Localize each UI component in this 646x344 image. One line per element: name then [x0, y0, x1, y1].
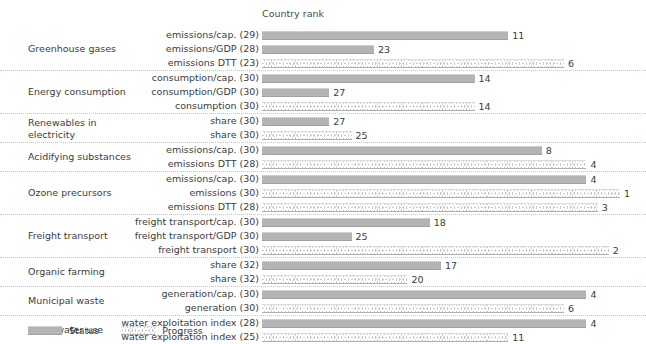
- bar-value-label: 25: [356, 230, 368, 244]
- indicator-label: emissions (30): [189, 186, 259, 200]
- legend-item-progress[interactable]: Progress: [121, 325, 203, 336]
- indicator-row: share (30)25: [0, 128, 646, 142]
- indicator-label: emissions/cap. (30): [166, 172, 259, 186]
- country-rank-chart: Country rank Greenhouse gasesemissions/c…: [0, 0, 646, 344]
- progress-bar[interactable]: [262, 304, 564, 313]
- status-bar[interactable]: [262, 218, 430, 227]
- status-bar[interactable]: [262, 31, 508, 40]
- indicator-row: freight transport (30)2: [0, 243, 646, 257]
- bar-value-label: 11: [512, 331, 524, 344]
- bar-value-label: 14: [479, 72, 491, 86]
- progress-bar[interactable]: [262, 102, 475, 111]
- legend-label: Status: [69, 325, 99, 336]
- indicator-row: consumption/GDP (30)27: [0, 85, 646, 99]
- bar-track: 14: [262, 102, 642, 111]
- progress-bar[interactable]: [262, 203, 598, 212]
- bar-value-label: 27: [333, 86, 345, 100]
- legend-swatch-progress-icon: [121, 326, 155, 335]
- indicator-label: emissions DTT (23): [168, 56, 259, 70]
- indicator-row: emissions (30)1: [0, 186, 646, 200]
- indicator-row: emissions/cap. (29)11: [0, 28, 646, 42]
- indicator-row: freight transport/cap. (30)18: [0, 215, 646, 229]
- indicator-label: consumption/GDP (30): [151, 85, 259, 99]
- bar-track: 4: [262, 319, 642, 328]
- indicator-label: share (30): [210, 114, 259, 128]
- legend-item-status[interactable]: Status: [28, 325, 99, 336]
- indicator-label: freight transport/cap. (30): [135, 215, 259, 229]
- bar-track: 3: [262, 203, 642, 212]
- bar-value-label: 20: [411, 273, 423, 287]
- indicator-label: freight transport/GDP (30): [135, 229, 259, 243]
- indicator-row: emissions/cap. (30)8: [0, 143, 646, 157]
- bar-track: 4: [262, 175, 642, 184]
- progress-bar[interactable]: [262, 333, 508, 342]
- bar-track: 6: [262, 304, 642, 313]
- bar-value-label: 4: [590, 173, 596, 187]
- bar-value-label: 8: [546, 144, 552, 158]
- bar-track: 25: [262, 232, 642, 241]
- status-bar[interactable]: [262, 45, 374, 54]
- bar-value-label: 18: [434, 216, 446, 230]
- progress-bar[interactable]: [262, 160, 586, 169]
- status-bar[interactable]: [262, 290, 586, 299]
- indicator-row: generation/cap. (30)4: [0, 287, 646, 301]
- progress-bar[interactable]: [262, 275, 407, 284]
- indicator-group: Organic farmingshare (32)17share (32)20: [0, 258, 646, 287]
- status-bar[interactable]: [262, 175, 586, 184]
- progress-bar[interactable]: [262, 131, 352, 140]
- indicator-label: freight transport (30): [158, 243, 259, 257]
- status-bar[interactable]: [262, 319, 586, 328]
- indicator-label: consumption/cap. (30): [152, 71, 259, 85]
- status-bar[interactable]: [262, 261, 441, 270]
- progress-bar[interactable]: [262, 189, 620, 198]
- indicator-label: emissions/GDP (28): [166, 42, 259, 56]
- bar-track: 14: [262, 74, 642, 83]
- progress-bar[interactable]: [262, 59, 564, 68]
- progress-bar[interactable]: [262, 246, 609, 255]
- indicator-group: Acidifying substancesemissions/cap. (30)…: [0, 143, 646, 172]
- indicator-label: consumption (30): [175, 99, 259, 113]
- indicator-row: emissions DTT (28)3: [0, 200, 646, 214]
- bar-track: 1: [262, 189, 642, 198]
- bar-track: 18: [262, 218, 642, 227]
- indicator-row: emissions DTT (28)4: [0, 157, 646, 171]
- bar-value-label: 1: [624, 187, 630, 201]
- status-bar[interactable]: [262, 146, 542, 155]
- bar-value-label: 2: [613, 244, 619, 258]
- indicator-row: emissions/GDP (28)23: [0, 42, 646, 56]
- indicator-label: share (32): [210, 272, 259, 286]
- indicator-group: Ozone precursorsemissions/cap. (30)4emis…: [0, 172, 646, 215]
- bar-track: 27: [262, 88, 642, 97]
- bar-track: 2: [262, 246, 642, 255]
- bar-track: 20: [262, 275, 642, 284]
- indicator-label: emissions/cap. (30): [166, 143, 259, 157]
- bar-track: 11: [262, 31, 642, 40]
- status-bar[interactable]: [262, 74, 475, 83]
- bar-track: 4: [262, 290, 642, 299]
- indicator-label: emissions/cap. (29): [166, 28, 259, 42]
- status-bar[interactable]: [262, 117, 329, 126]
- bar-value-label: 3: [602, 201, 608, 215]
- indicator-row: consumption (30)14: [0, 99, 646, 113]
- bar-value-label: 23: [378, 43, 390, 57]
- indicator-group: Greenhouse gasesemissions/cap. (29)11emi…: [0, 28, 646, 71]
- indicator-group: Freight transportfreight transport/cap. …: [0, 215, 646, 258]
- indicator-group: Energy consumptionconsumption/cap. (30)1…: [0, 71, 646, 114]
- indicator-row: freight transport/GDP (30)25: [0, 229, 646, 243]
- bar-track: 27: [262, 117, 642, 126]
- indicator-label: share (32): [210, 258, 259, 272]
- bar-track: 23: [262, 45, 642, 54]
- bar-value-label: 11: [512, 29, 524, 43]
- bar-value-label: 4: [590, 158, 596, 172]
- indicator-group: Renewables in electricityshare (30)27sha…: [0, 114, 646, 143]
- bar-value-label: 27: [333, 115, 345, 129]
- indicator-row: emissions DTT (23)6: [0, 56, 646, 70]
- indicator-label: emissions DTT (28): [168, 200, 259, 214]
- bar-value-label: 25: [356, 129, 368, 143]
- status-bar[interactable]: [262, 88, 329, 97]
- status-bar[interactable]: [262, 232, 352, 241]
- bar-track: 25: [262, 131, 642, 140]
- indicator-group: Municipal wastegeneration/cap. (30)4gene…: [0, 287, 646, 316]
- indicator-row: generation (30)6: [0, 301, 646, 315]
- bar-track: 4: [262, 160, 642, 169]
